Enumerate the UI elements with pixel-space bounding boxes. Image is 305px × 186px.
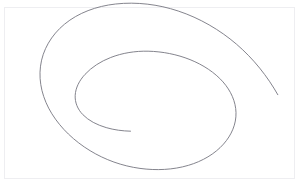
spiral-drawing-svg: Elliptical spiral line drawing [0,0,305,186]
spiral-drawing-canvas: Elliptical spiral line drawing [0,0,305,186]
spiral-curve-path [40,3,278,169]
